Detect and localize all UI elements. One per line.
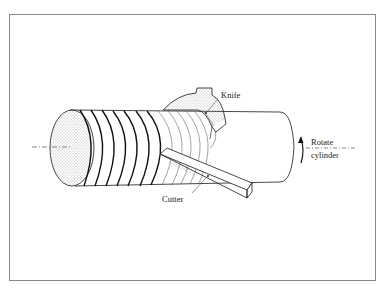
knife-label: Knife bbox=[221, 91, 240, 100]
rotate-label-line2: cylinder bbox=[311, 151, 339, 160]
rotate-label-line1: Rotate bbox=[311, 138, 333, 147]
cutter bbox=[160, 148, 252, 198]
knife bbox=[163, 88, 226, 139]
cutter-label: Cutter bbox=[162, 195, 183, 204]
rotate-arrow-icon bbox=[298, 136, 304, 163]
